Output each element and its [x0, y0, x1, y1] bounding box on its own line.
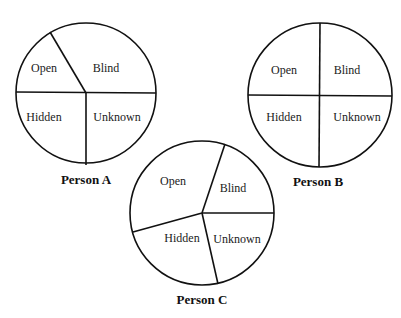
quadrant-unknown: Unknown [93, 110, 140, 124]
person-b-circle: Open Blind Hidden Unknown [248, 23, 392, 167]
person-a-caption: Person A [61, 172, 112, 187]
quadrant-unknown: Unknown [333, 110, 380, 124]
person-b-caption: Person B [293, 174, 344, 189]
hidden-unknown-divider [202, 213, 218, 284]
person-a-circle: Open Blind Hidden Unknown [16, 23, 156, 165]
quadrant-blind: Blind [220, 181, 247, 195]
quadrant-open: Open [160, 174, 186, 188]
quadrant-blind: Blind [334, 63, 361, 77]
quadrant-hidden: Hidden [26, 110, 61, 124]
quadrant-hidden: Hidden [266, 110, 301, 124]
vertical-divider [319, 23, 320, 167]
person-c-circle: Open Blind Hidden Unknown [130, 141, 274, 285]
open-hidden-divider [133, 213, 202, 232]
quadrant-hidden: Hidden [164, 231, 199, 245]
quadrant-open: Open [271, 63, 297, 77]
person-c-caption: Person C [177, 292, 228, 307]
quadrant-unknown: Unknown [213, 232, 260, 246]
open-blind-divider [202, 144, 225, 213]
quadrant-open: Open [31, 61, 57, 75]
quadrant-blind: Blind [93, 61, 120, 75]
johari-diagram: Open Blind Hidden Unknown Person A Open … [0, 0, 401, 318]
